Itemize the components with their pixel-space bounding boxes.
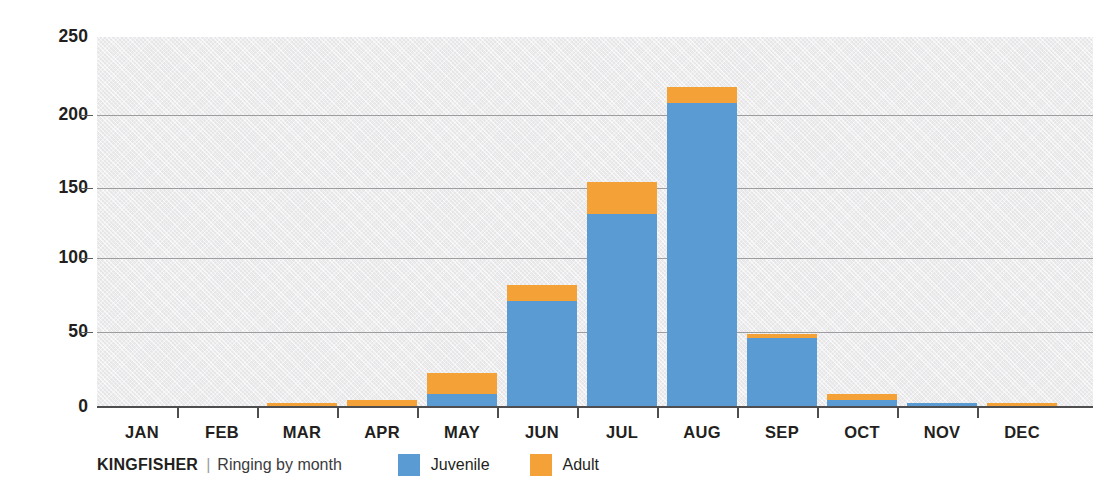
bar-segment-adult [507, 285, 577, 301]
bar-segment-juvenile [427, 394, 497, 406]
x-axis-tick-mark-9 [817, 407, 819, 418]
y-axis-tick-label-200: 200 [28, 106, 88, 124]
x-axis-label-oct: OCT [817, 424, 907, 441]
bar-jun[interactable] [507, 285, 577, 406]
y-axis-tick-label-250: 250 [28, 28, 88, 46]
x-axis-label-feb: FEB [177, 424, 267, 441]
title-separator: | [198, 456, 217, 474]
bar-jul[interactable] [587, 182, 657, 406]
x-axis-label-may: MAY [417, 424, 507, 441]
x-axis-label-jun: JUN [497, 424, 587, 441]
x-axis-label-dec: DEC [977, 424, 1067, 441]
x-axis-tick-mark-2 [257, 407, 259, 418]
bar-segment-juvenile [667, 103, 737, 406]
bar-segment-adult [427, 373, 497, 394]
bar-segment-juvenile [747, 338, 817, 406]
chart-footer: KINGFISHER | Ringing by month Juvenile A… [97, 452, 599, 478]
y-axis-tick-mark-50 [80, 332, 93, 333]
x-axis-label-apr: APR [337, 424, 427, 441]
chart-subtitle: Ringing by month [217, 456, 342, 474]
legend-swatch-juvenile [398, 454, 420, 476]
x-axis-label-aug: AUG [657, 424, 747, 441]
legend-item-juvenile[interactable]: Juvenile [398, 454, 490, 476]
x-axis-line [97, 406, 1093, 408]
bar-oct[interactable] [827, 394, 897, 406]
bar-segment-adult [667, 87, 737, 103]
gridline-200 [97, 115, 1093, 116]
legend-label-juvenile: Juvenile [420, 456, 490, 474]
x-axis-tick-mark-5 [497, 407, 499, 418]
bar-may[interactable] [427, 373, 497, 406]
bar-segment-adult [827, 394, 897, 400]
bar-segment-juvenile [587, 214, 657, 406]
x-axis-tick-mark-8 [737, 407, 739, 418]
y-axis-tick-mark-100 [80, 258, 93, 259]
legend-item-adult[interactable]: Adult [530, 454, 599, 476]
x-axis-tick-mark-10 [897, 407, 899, 418]
y-axis-tick-label-100: 100 [28, 249, 88, 267]
y-axis-tick-mark-200 [80, 115, 93, 116]
legend-label-adult: Adult [552, 456, 599, 474]
x-axis-tick-mark-7 [657, 407, 659, 418]
x-axis-label-jul: JUL [577, 424, 667, 441]
bar-segment-juvenile [507, 301, 577, 406]
x-axis-tick-mark-6 [577, 407, 579, 418]
x-axis-label-mar: MAR [257, 424, 347, 441]
y-axis-tick-mark-150 [80, 188, 93, 189]
y-axis-tick-label-150: 150 [28, 179, 88, 197]
chart-title: KINGFISHER [97, 456, 198, 474]
x-axis-tick-mark-1 [177, 407, 179, 418]
chart-figure: 250 200 150 100 50 0 [0, 0, 1103, 502]
legend-swatch-adult [530, 454, 552, 476]
y-axis-tick-label-0: 0 [28, 398, 88, 416]
y-axis-tick-label-50: 50 [28, 323, 88, 341]
x-axis-label-jan: JAN [97, 424, 187, 441]
bar-segment-adult [587, 182, 657, 214]
x-axis-tick-mark-11 [977, 407, 979, 418]
x-axis-tick-mark-4 [417, 407, 419, 418]
bar-segment-adult [747, 334, 817, 338]
x-axis-label-nov: NOV [897, 424, 987, 441]
x-axis-tick-mark-3 [337, 407, 339, 418]
bar-sep[interactable] [747, 334, 817, 406]
x-axis-label-sep: SEP [737, 424, 827, 441]
bar-aug[interactable] [667, 87, 737, 406]
